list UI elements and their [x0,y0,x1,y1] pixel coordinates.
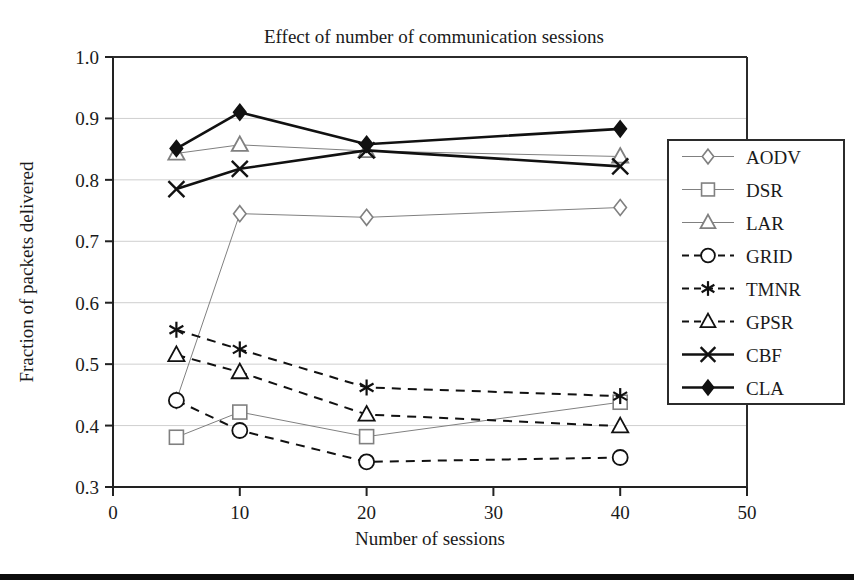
marker-square-open [360,430,374,444]
x-tick-label: 20 [357,502,376,523]
footer-rule [0,574,854,580]
y-axis-label: Fraction of packets delivered [16,161,37,383]
legend-label: CBF [746,345,782,366]
y-tick-label: 1.0 [75,47,99,68]
legend-label: TMNR [746,279,801,300]
y-tick-label: 0.6 [75,293,99,314]
legend-label: LAR [746,213,784,234]
marker-circle-open [232,423,247,438]
legend-label: AODV [746,147,801,168]
data-point-marker [701,249,715,263]
legend-label: GPSR [746,312,794,333]
data-point-marker [613,450,628,465]
legend-label: GRID [746,246,792,267]
x-axis-label: Number of sessions [355,528,505,549]
data-point-marker [232,423,247,438]
marker-square-open [702,183,715,196]
y-tick-label: 0.3 [75,477,99,498]
data-point-marker [233,405,247,419]
chart-figure: Effect of number of communication sessio… [0,0,854,586]
x-tick-label: 30 [484,502,503,523]
y-tick-label: 0.4 [75,416,99,437]
marker-square-open [169,430,183,444]
line-chart: Effect of number of communication sessio… [0,0,854,586]
y-tick-label: 0.8 [75,170,99,191]
marker-circle-open [701,249,715,263]
y-tick-label: 0.9 [75,108,99,129]
data-point-marker [360,430,374,444]
data-point-marker [702,183,715,196]
y-tick-label: 0.5 [75,354,99,375]
legend-label: CLA [746,378,784,399]
data-point-marker [169,430,183,444]
chart-title: Effect of number of communication sessio… [264,26,604,47]
marker-circle-open [169,393,184,408]
marker-circle-open [613,450,628,465]
x-tick-label: 50 [738,502,757,523]
data-point-marker [359,454,374,469]
x-tick-label: 10 [230,502,249,523]
x-tick-label: 0 [108,502,118,523]
data-point-marker [169,393,184,408]
legend-label: DSR [746,180,783,201]
x-tick-label: 40 [611,502,630,523]
y-tick-label: 0.7 [75,231,99,252]
marker-square-open [233,405,247,419]
marker-circle-open [359,454,374,469]
